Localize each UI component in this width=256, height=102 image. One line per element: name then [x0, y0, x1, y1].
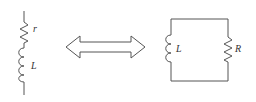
series-circuit: r L [19, 11, 37, 95]
resistor-r-icon [20, 22, 28, 43]
label-l-right: L [175, 43, 182, 54]
inductor-l-right-icon [166, 35, 171, 62]
wire-bottom-right [171, 62, 228, 81]
label-l-left: L [30, 60, 37, 71]
inductor-l-icon [19, 48, 24, 82]
resistor-r-right-icon [224, 37, 232, 62]
wire-top-right [171, 19, 228, 37]
label-r: r [33, 23, 37, 34]
double-arrow-icon [66, 36, 145, 58]
parallel-circuit: L R [166, 19, 241, 81]
label-r-right: R [234, 43, 241, 54]
equivalence-diagram: r L L R [0, 0, 256, 102]
